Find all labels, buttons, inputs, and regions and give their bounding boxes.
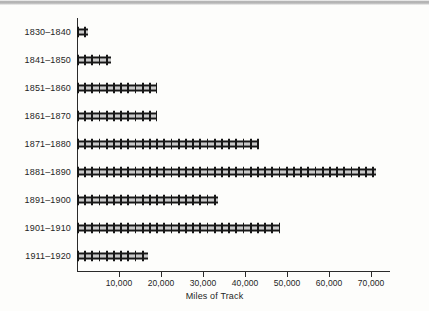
- x-axis-tick-label: 30,000: [190, 278, 217, 288]
- bar-rail-top: [77, 141, 259, 143]
- x-axis-tick: [329, 272, 330, 277]
- category-label: 1901–1910: [25, 223, 71, 233]
- bar-rail-bottom: [77, 257, 148, 259]
- category-label: 1871–1880: [25, 139, 71, 149]
- bar: [77, 83, 157, 94]
- x-axis-tick-label: 40,000: [232, 278, 259, 288]
- category-label: 1911–1920: [25, 251, 71, 261]
- category-label: 1891–1900: [25, 195, 71, 205]
- bar-rail-top: [77, 57, 111, 59]
- x-axis-tick: [161, 272, 162, 277]
- x-axis-tick: [287, 272, 288, 277]
- category-label: 1851–1860: [25, 83, 71, 93]
- x-axis-tick: [119, 272, 120, 277]
- bar-rail-bottom: [77, 201, 218, 203]
- x-axis-line: [77, 271, 390, 272]
- x-axis-tick: [203, 272, 204, 277]
- x-axis-tick-label: 20,000: [148, 278, 175, 288]
- bar-rail-top: [77, 253, 148, 255]
- bar: [77, 139, 259, 150]
- bar-rail-bottom: [77, 145, 259, 147]
- category-label: 1881–1890: [25, 167, 71, 177]
- bar: [77, 167, 376, 178]
- railroad-miles-bar-chart: 1830–18401841–18501851–18601861–18701871…: [0, 0, 429, 311]
- bar: [77, 223, 280, 234]
- bar: [77, 195, 218, 206]
- bar-rail-top: [77, 29, 88, 31]
- bar-rail-bottom: [77, 89, 157, 91]
- bar-rail-bottom: [77, 33, 88, 35]
- bar: [77, 27, 88, 38]
- bar: [77, 251, 148, 262]
- x-axis-tick-label: 50,000: [274, 278, 301, 288]
- bar-rail-bottom: [77, 229, 280, 231]
- category-label: 1841–1850: [25, 55, 71, 65]
- bar-rail-top: [77, 169, 376, 171]
- bar-rail-top: [77, 197, 218, 199]
- x-axis-tick-label: 70,000: [358, 278, 385, 288]
- x-axis-tick-label: 10,000: [106, 278, 133, 288]
- category-label: 1830–1840: [25, 27, 71, 37]
- x-axis-title: Miles of Track: [0, 291, 429, 301]
- x-axis-tick-label: 60,000: [316, 278, 343, 288]
- bar: [77, 111, 157, 122]
- category-label: 1861–1870: [25, 111, 71, 121]
- bar-rail-top: [77, 113, 157, 115]
- bar-rail-top: [77, 85, 157, 87]
- bar-rail-bottom: [77, 117, 157, 119]
- bar-rail-bottom: [77, 173, 376, 175]
- bar-rail-bottom: [77, 61, 111, 63]
- bar: [77, 55, 111, 66]
- bar-rail-top: [77, 225, 280, 227]
- x-axis-tick: [245, 272, 246, 277]
- x-axis-tick: [371, 272, 372, 277]
